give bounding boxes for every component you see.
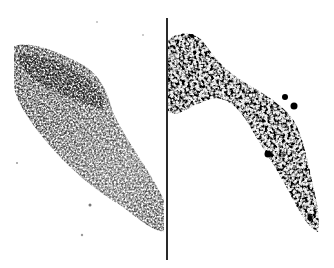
left-tissue-graphic [0, 0, 166, 268]
right-tissue-graphic [168, 0, 334, 268]
right-panel-tissue [168, 0, 334, 268]
image-stage [0, 0, 334, 268]
left-panel-tissue [0, 0, 166, 268]
